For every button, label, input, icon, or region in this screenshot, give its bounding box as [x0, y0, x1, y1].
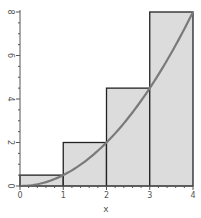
- y-tick-label: 4: [6, 96, 15, 101]
- bars: [20, 12, 193, 186]
- riemann-sum-chart: 0123402468 x: [0, 0, 201, 218]
- x-tick-label: 3: [147, 191, 152, 200]
- bar-3: [150, 12, 193, 186]
- y-tick-label: 2: [6, 140, 15, 145]
- y-tick-label: 0: [6, 183, 15, 188]
- x-tick-label: 2: [104, 191, 109, 200]
- x-axis-label: x: [103, 204, 109, 214]
- y-tick-label: 6: [6, 53, 15, 58]
- y-tick-label: 8: [6, 9, 15, 14]
- x-tick-label: 4: [190, 191, 195, 200]
- x-tick-label: 1: [61, 191, 66, 200]
- x-tick-label: 0: [17, 191, 22, 200]
